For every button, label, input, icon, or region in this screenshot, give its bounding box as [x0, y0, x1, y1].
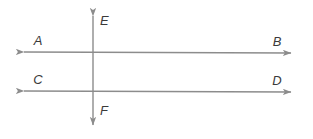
point-label-b: B: [273, 34, 282, 49]
geometry-canvas: A B C D E F: [0, 0, 313, 139]
geometry-diagram: A B C D E F: [0, 0, 313, 139]
point-label-d: D: [272, 73, 281, 88]
point-label-e: E: [100, 13, 109, 28]
line-ab: [24, 52, 291, 53]
point-label-c: C: [33, 72, 43, 87]
line-cd: [24, 91, 291, 92]
point-label-a: A: [33, 33, 43, 48]
point-label-f: F: [100, 103, 109, 118]
